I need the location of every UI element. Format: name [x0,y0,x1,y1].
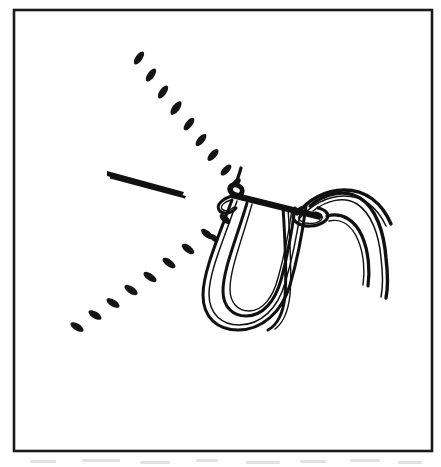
illustration-border [14,10,432,451]
knot-illustration: Surgical knot tying — instrument tie wit… [0,0,441,467]
figure-root: Surgical knot tying — instrument tie wit… [0,0,441,467]
